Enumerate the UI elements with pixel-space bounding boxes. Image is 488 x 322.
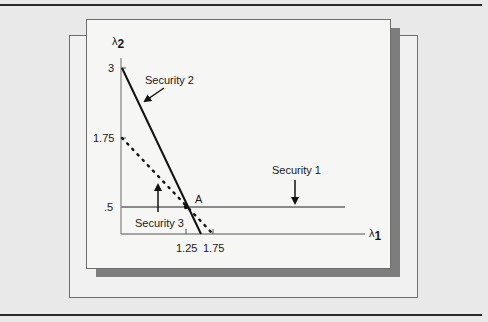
y-tick-label-3: 3	[108, 62, 114, 74]
point-a-marker	[184, 205, 188, 209]
security-1-label: Security 1	[272, 164, 321, 176]
x-tick-label-1-75: 1.75	[203, 242, 224, 254]
security-2-label: Security 2	[145, 74, 194, 86]
point-a-label: A	[195, 193, 203, 205]
y-tick-label-0-5: .5	[104, 201, 113, 213]
x-tick-label-1-25: 1.25	[176, 242, 197, 254]
y-tick-label-1-75: 1.75	[93, 132, 114, 144]
figure-page: λ2 λ1 3 1.75 .5 1.25 1.75 A Security 1 S…	[0, 0, 488, 322]
security-3-label: Security 3	[135, 217, 184, 229]
x-axis-label: λ1	[369, 227, 382, 243]
y-axis-label: λ2	[112, 35, 125, 51]
security-2-arrow-icon	[145, 88, 164, 101]
factor-plot: λ2 λ1 3 1.75 .5 1.25 1.75 A Security 1 S…	[0, 0, 488, 322]
